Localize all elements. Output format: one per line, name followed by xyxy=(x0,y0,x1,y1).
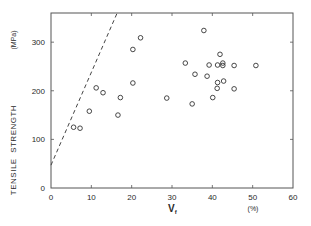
data-point xyxy=(164,96,169,101)
x-axis-label-subscript: f xyxy=(175,209,178,215)
data-point xyxy=(215,63,220,68)
data-point xyxy=(232,63,237,68)
data-point xyxy=(78,126,83,131)
scatter-chart: 0102030405060 0100200300 TENSILE STRENGT… xyxy=(0,0,311,226)
y-tick-label: 100 xyxy=(32,135,46,144)
reference-line-group xyxy=(51,13,117,165)
data-point xyxy=(232,87,237,92)
plot-frame xyxy=(51,13,293,188)
y-tick-label: 200 xyxy=(32,87,46,96)
x-axis-label: Vf xyxy=(168,203,178,215)
data-point xyxy=(193,72,198,77)
data-point xyxy=(131,47,136,52)
data-point xyxy=(202,28,207,33)
x-tick-label: 20 xyxy=(127,193,136,202)
data-point xyxy=(190,102,195,107)
x-tick-label: 60 xyxy=(289,193,298,202)
x-axis-ticks: 0102030405060 xyxy=(49,13,298,202)
y-tick-label: 300 xyxy=(32,38,46,47)
data-point xyxy=(87,109,92,114)
data-point xyxy=(205,74,210,79)
x-tick-label: 40 xyxy=(208,193,217,202)
data-point xyxy=(71,125,76,130)
x-tick-label: 10 xyxy=(87,193,96,202)
data-point xyxy=(215,86,220,91)
data-point xyxy=(207,63,212,68)
x-tick-label: 0 xyxy=(49,193,54,202)
y-axis-ticks: 0100200300 xyxy=(32,38,293,193)
data-point xyxy=(254,63,259,68)
data-point xyxy=(215,80,220,85)
data-point xyxy=(210,95,215,100)
data-point xyxy=(116,113,121,118)
data-point xyxy=(138,35,143,40)
x-tick-label: 30 xyxy=(168,193,177,202)
data-point xyxy=(183,61,188,66)
dashed-reference-line xyxy=(51,13,117,165)
y-axis-unit: (MPa) xyxy=(10,30,18,49)
data-points xyxy=(71,28,258,130)
y-tick-label: 0 xyxy=(41,184,46,193)
x-tick-label: 50 xyxy=(248,193,257,202)
plot-border xyxy=(51,13,293,188)
data-point xyxy=(131,81,136,86)
data-point xyxy=(101,90,106,95)
data-point xyxy=(221,79,226,84)
y-axis-label: TENSILE STRENGTH xyxy=(9,105,18,195)
data-point xyxy=(94,86,99,91)
data-point xyxy=(118,95,123,100)
data-point xyxy=(218,52,223,57)
x-axis-unit: (%) xyxy=(248,205,259,213)
